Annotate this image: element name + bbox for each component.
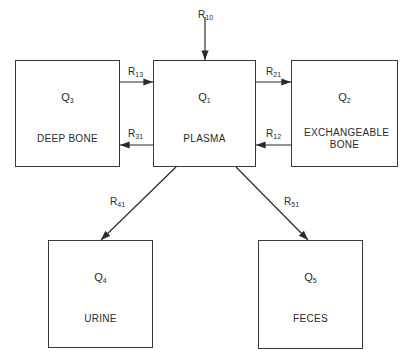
compartment-q4-name: URINE [49, 313, 152, 325]
compartment-q2: Q2 EXCHANGEABLE BONE [291, 60, 398, 167]
compartment-q1-symbol: Q1 [154, 91, 255, 104]
compartment-q1: Q1 PLASMA [153, 60, 256, 167]
compartment-q2-symbol: Q2 [292, 91, 397, 104]
compartment-q4-symbol: Q4 [49, 271, 152, 284]
rate-label-r31: R31 [128, 128, 143, 140]
rate-label-r12: R12 [266, 128, 281, 140]
compartment-q5: Q5 FECES [258, 240, 363, 349]
compartment-q3-name: DEEP BONE [16, 133, 119, 145]
compartment-q3: Q3 DEEP BONE [15, 60, 120, 167]
compartment-q1-name: PLASMA [154, 133, 255, 145]
compartment-q5-name: FECES [259, 313, 362, 325]
compartment-q2-name: EXCHANGEABLE BONE [304, 127, 385, 151]
compartment-q4: Q4 URINE [48, 240, 153, 348]
rate-label-r41: R41 [110, 196, 125, 208]
rate-label-r21: R21 [266, 66, 281, 78]
compartment-q3-symbol: Q3 [16, 91, 119, 104]
rate-label-r13: R13 [128, 66, 143, 78]
rate-label-r51: R51 [284, 196, 299, 208]
compartment-q5-symbol: Q5 [259, 271, 362, 284]
rate-label-r10: R10 [198, 9, 213, 21]
